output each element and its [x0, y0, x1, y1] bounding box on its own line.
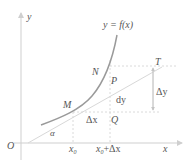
point-n-label: N	[91, 66, 100, 77]
point-q-label: Q	[111, 114, 119, 125]
differential-diagram: y O x y = f(x) M N P Q T α Δx dy Δy x0 x…	[0, 0, 186, 162]
x0-tick-label: x0	[68, 143, 76, 155]
angle-alpha-label: α	[50, 128, 55, 138]
curve-label: y = f(x)	[102, 19, 134, 31]
delta-y-label: Δy	[156, 86, 167, 97]
point-p-label: P	[110, 75, 117, 86]
x-axis-label: x	[162, 143, 168, 154]
point-m-label: M	[62, 99, 72, 110]
dx-label: Δx	[86, 114, 97, 125]
point-t-label: T	[155, 56, 162, 67]
y-axis-label: y	[26, 11, 32, 22]
function-curve	[41, 35, 117, 125]
origin-label: O	[7, 140, 14, 151]
x0dx-tick-label: x0+Δx	[95, 143, 121, 155]
dy-label: dy	[116, 94, 126, 105]
tangent-line	[28, 67, 162, 143]
